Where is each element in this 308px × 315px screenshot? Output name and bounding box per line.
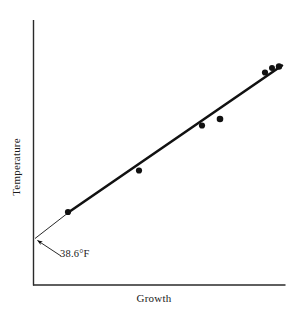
data-point (65, 209, 71, 215)
extrapolated-regression-segment (35, 213, 69, 239)
callout-leader-line (38, 241, 62, 257)
data-point (199, 122, 205, 128)
y-axis-title-text: Temperature (10, 138, 22, 196)
x-axis-title: Growth (0, 292, 308, 304)
data-point (262, 69, 268, 75)
data-point (217, 116, 224, 123)
scatter-plot-canvas (0, 0, 308, 315)
data-point (276, 63, 282, 69)
intercept-annotation-label: 38.6°F (60, 248, 90, 259)
data-point (136, 167, 142, 173)
y-axis-title: Temperature (9, 122, 23, 212)
chart-figure: Temperature Growth 38.6°F (0, 0, 308, 315)
data-point (269, 65, 275, 71)
regression-line (68, 66, 283, 214)
